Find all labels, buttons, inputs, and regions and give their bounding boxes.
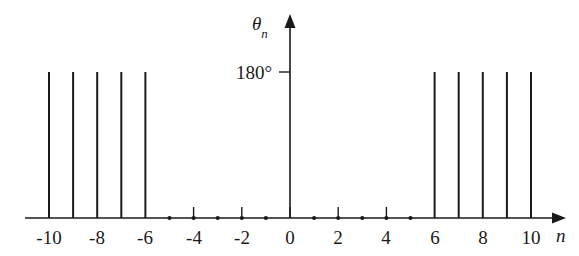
xtick-label-0: 0: [285, 228, 295, 247]
xtick-label-8: 8: [478, 228, 488, 247]
x-axis-ticks: [194, 207, 387, 218]
xtick-label-6: 6: [430, 228, 440, 247]
xtick-label-minus6: -6: [137, 228, 153, 247]
xtick-label-minus10: -10: [36, 228, 61, 247]
y-axis-title-symbol: θ: [252, 13, 261, 34]
dot-n-5: [408, 216, 412, 220]
x-axis-arrow-icon: [552, 213, 566, 224]
xtick-label-minus4: -4: [186, 228, 202, 247]
dot-n-minus1: [264, 216, 268, 220]
x-axis-group: [25, 213, 566, 224]
phase-spectrum-figure: 180° θn n -10 -8 -6 -4 -2 0 2 4 6 8 10: [0, 0, 579, 256]
stems-positive: [435, 72, 531, 218]
dot-n-1: [312, 216, 316, 220]
dot-n-minus3: [216, 216, 220, 220]
y-axis-title: θn: [252, 14, 268, 37]
xtick-label-minus8: -8: [89, 228, 105, 247]
dot-n-3: [360, 216, 364, 220]
dot-n-minus5: [167, 216, 171, 220]
x-axis-title: n: [556, 226, 566, 245]
xtick-label-4: 4: [381, 228, 391, 247]
y-axis-arrow-icon: [285, 14, 296, 28]
xtick-label-minus2: -2: [234, 228, 250, 247]
xtick-label-10: 10: [522, 228, 541, 247]
y-axis-group: [279, 14, 296, 218]
y-tick-label-180: 180°: [236, 63, 272, 82]
y-axis-title-subscript: n: [261, 26, 268, 41]
xtick-label-2: 2: [333, 228, 343, 247]
stem-plot-canvas: [0, 0, 579, 256]
stems-negative: [49, 72, 145, 218]
